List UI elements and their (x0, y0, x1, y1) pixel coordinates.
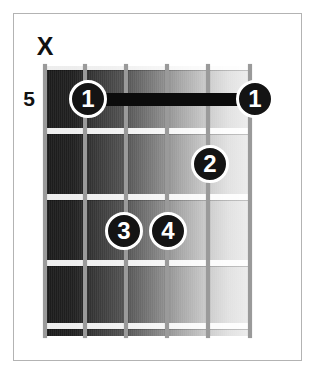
string-1-low-e (43, 64, 47, 338)
finger-dot-4-string4: 4 (149, 212, 187, 250)
muted-string-marker: X (32, 33, 58, 59)
start-fret-label: 5 (18, 86, 40, 112)
finger-dot-2-string5: 2 (191, 145, 229, 183)
finger-dot-1-string2: 1 (69, 80, 107, 118)
fret-line-0 (44, 66, 252, 70)
fret-line-3 (44, 260, 252, 266)
finger-dot-1-string6: 1 (236, 80, 274, 118)
fret-line-1 (44, 128, 252, 134)
fret-line-2 (44, 194, 252, 200)
fret-line-4 (44, 323, 252, 329)
finger-dot-3-string3: 3 (105, 212, 143, 250)
chord-diagram: X 5 1 1 2 3 4 (0, 0, 316, 379)
barre-bar (103, 93, 240, 106)
